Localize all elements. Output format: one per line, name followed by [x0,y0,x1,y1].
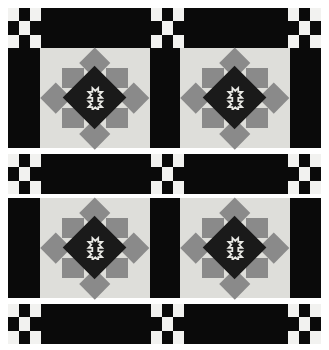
checker-cell-dark [19,331,30,344]
checkerboard-nine-patch [151,8,184,48]
checker-cell-dark [19,304,30,317]
checker-cell-dark [288,167,299,180]
checker-cell-dark [288,21,299,34]
sash-black-bar [184,154,288,194]
checker-cell-light [30,154,41,167]
top-border-sash [0,8,329,48]
checker-cell-light [8,35,19,48]
checker-cell-light [19,167,30,180]
checker-cell-dark [19,154,30,167]
checker-cell-dark [299,331,310,344]
checker-cell-dark [8,317,19,330]
checker-cell-dark [151,317,162,330]
lower-block-row [0,198,329,298]
checker-cell-light [151,181,162,194]
star-block [180,198,290,298]
checker-cell-light [162,167,173,180]
row-black-bar [290,198,321,298]
checker-cell-dark [30,21,41,34]
checker-cell-light [288,304,299,317]
cross-motif-icon [223,86,248,111]
checker-cell-light [162,21,173,34]
checker-cell-light [151,8,162,21]
checker-cell-dark [151,21,162,34]
row-black-bar [150,198,180,298]
checker-cell-light [288,35,299,48]
checker-cell-light [151,154,162,167]
checker-cell-dark [310,21,321,34]
sash-black-bar [184,304,288,344]
checker-cell-light [173,304,184,317]
checker-cell-light [310,8,321,21]
checker-cell-dark [173,317,184,330]
upper-block-row [0,48,329,148]
cross-motif-icon [83,236,108,261]
checker-cell-dark [299,154,310,167]
row-black-bar [150,48,180,148]
checker-cell-dark [30,317,41,330]
checker-cell-dark [30,167,41,180]
checker-cell-light [173,181,184,194]
checker-cell-light [19,21,30,34]
checkerboard-nine-patch [8,154,41,194]
quilt-canvas [0,0,329,350]
checker-cell-dark [310,167,321,180]
center-medallion [81,234,110,263]
star-block [180,48,290,148]
checkerboard-nine-patch [8,8,41,48]
checker-cell-light [151,35,162,48]
checker-cell-light [299,167,310,180]
checker-cell-light [30,304,41,317]
checker-cell-dark [19,8,30,21]
checker-cell-light [30,8,41,21]
checker-cell-dark [162,304,173,317]
checker-cell-light [173,8,184,21]
checker-cell-light [173,331,184,344]
checker-cell-dark [162,331,173,344]
checker-cell-dark [299,8,310,21]
checker-cell-light [288,154,299,167]
checker-cell-light [8,331,19,344]
checker-cell-light [310,154,321,167]
row-black-bar [8,48,40,148]
checker-cell-light [8,181,19,194]
star-block [40,198,150,298]
checker-cell-dark [19,181,30,194]
cross-motif-icon [83,86,108,111]
checker-cell-light [310,331,321,344]
checkerboard-nine-patch [288,304,321,344]
checker-cell-dark [151,167,162,180]
center-medallion [81,84,110,113]
row-black-bar [290,48,321,148]
checkerboard-nine-patch [288,154,321,194]
checker-cell-dark [162,35,173,48]
checker-cell-dark [299,35,310,48]
checker-cell-dark [162,8,173,21]
checker-cell-light [19,317,30,330]
checker-cell-light [310,35,321,48]
checker-cell-light [30,331,41,344]
center-medallion [221,234,250,263]
checker-cell-dark [299,181,310,194]
checker-cell-dark [8,167,19,180]
checker-cell-light [151,304,162,317]
checkerboard-nine-patch [151,154,184,194]
bottom-border-sash [0,304,329,344]
sash-black-bar [184,8,288,48]
checker-cell-dark [162,154,173,167]
checker-cell-light [30,181,41,194]
checker-cell-dark [173,21,184,34]
checker-cell-light [173,35,184,48]
checker-cell-light [8,8,19,21]
checker-cell-light [310,304,321,317]
checker-cell-dark [19,35,30,48]
checker-cell-light [30,35,41,48]
checker-cell-dark [173,167,184,180]
checker-cell-dark [299,304,310,317]
checker-cell-light [288,181,299,194]
sash-black-bar [41,154,151,194]
checker-cell-dark [162,181,173,194]
checkerboard-nine-patch [8,304,41,344]
sash-black-bar [41,8,151,48]
sash-black-bar [41,304,151,344]
